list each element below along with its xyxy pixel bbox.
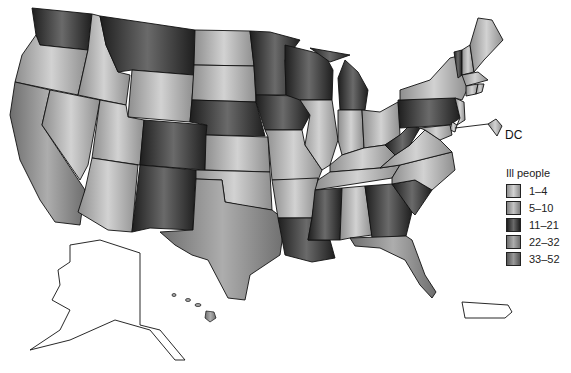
territory-puerto-rico bbox=[462, 302, 512, 318]
dc-leader-line bbox=[455, 124, 488, 128]
state-florida bbox=[350, 236, 436, 298]
state-hawaii bbox=[172, 294, 216, 323]
legend-label: 22–32 bbox=[529, 236, 560, 248]
legend-item: 11–21 bbox=[506, 216, 560, 233]
state-arizona bbox=[78, 158, 138, 232]
legend: Ill people 1–4 5–10 11–21 22–32 33–52 bbox=[506, 167, 560, 267]
state-kansas bbox=[205, 135, 270, 172]
state-maine bbox=[470, 18, 503, 72]
state-washington bbox=[32, 8, 92, 50]
state-pennsylvania bbox=[398, 98, 460, 128]
legend-swatch bbox=[506, 252, 521, 266]
state-wyoming bbox=[128, 70, 194, 122]
legend-swatch bbox=[506, 235, 521, 249]
legend-swatch bbox=[506, 201, 521, 215]
legend-label: 33–52 bbox=[529, 253, 560, 265]
state-north-dakota bbox=[194, 30, 254, 66]
legend-swatch bbox=[506, 184, 521, 198]
dc-label: DC bbox=[505, 128, 522, 142]
state-alaska bbox=[30, 240, 185, 360]
legend-swatch bbox=[506, 218, 521, 232]
legend-item: 1–4 bbox=[506, 182, 560, 199]
state-south-dakota bbox=[192, 65, 256, 102]
state-michigan bbox=[338, 60, 368, 110]
legend-item: 33–52 bbox=[506, 250, 560, 267]
legend-title: Ill people bbox=[506, 167, 560, 179]
state-indiana bbox=[338, 110, 364, 155]
state-colorado bbox=[140, 120, 207, 170]
legend-item: 22–32 bbox=[506, 233, 560, 250]
state-arkansas bbox=[272, 178, 318, 218]
legend-item: 5–10 bbox=[506, 199, 560, 216]
us-choropleth-map bbox=[0, 0, 571, 373]
state-new-mexico bbox=[132, 165, 196, 232]
legend-label: 11–21 bbox=[529, 219, 559, 231]
legend-label: 1–4 bbox=[529, 185, 547, 197]
legend-label: 5–10 bbox=[529, 202, 553, 214]
state-dc-callout bbox=[488, 119, 502, 136]
